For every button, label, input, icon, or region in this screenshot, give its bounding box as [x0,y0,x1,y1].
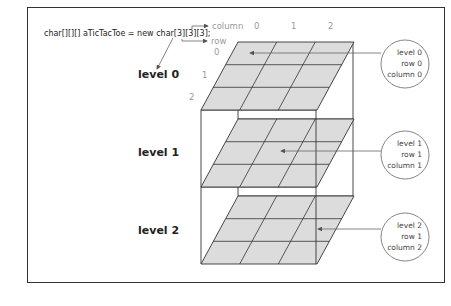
3d-array-diagram: char[][][] aTicTacToe = new char[3][3][3… [0,0,451,306]
code-declaration: char[][][] aTicTacToe = new char[3][3][3… [44,29,211,38]
row-index-0: 0 [214,47,219,57]
svg-text:row 0: row 0 [401,59,422,68]
level-1-grid [201,119,354,187]
row-index-1: 1 [202,70,207,80]
callout-level-2: level 2 row 1 column 2 [381,213,429,261]
svg-text:column 2: column 2 [387,243,422,252]
row-index-2: 2 [189,92,194,102]
level-1-label: level 1 [138,146,179,159]
column-index-1: 1 [291,21,296,31]
svg-text:row 1: row 1 [401,232,422,241]
level-pointer-arrow [157,38,173,69]
row-axis-label: row [211,36,227,46]
level-2-grid [201,196,354,264]
level-0-label: level 0 [138,68,179,81]
svg-text:level 2: level 2 [397,221,422,230]
callout-level-0: level 0 row 0 column 0 [381,40,429,88]
svg-text:column 1: column 1 [387,161,422,170]
level-2-label: level 2 [138,224,179,237]
svg-text:level 1: level 1 [397,139,422,148]
svg-text:level 0: level 0 [397,48,422,57]
svg-text:row 1: row 1 [401,150,422,159]
svg-text:column 0: column 0 [387,70,422,79]
row-pointer-arrow [182,39,207,41]
level-0-grid [201,42,354,110]
callout-level-1: level 1 row 1 column 1 [381,131,429,179]
column-axis-label: column [212,21,243,31]
column-index-2: 2 [328,21,333,31]
column-index-0: 0 [254,21,259,31]
